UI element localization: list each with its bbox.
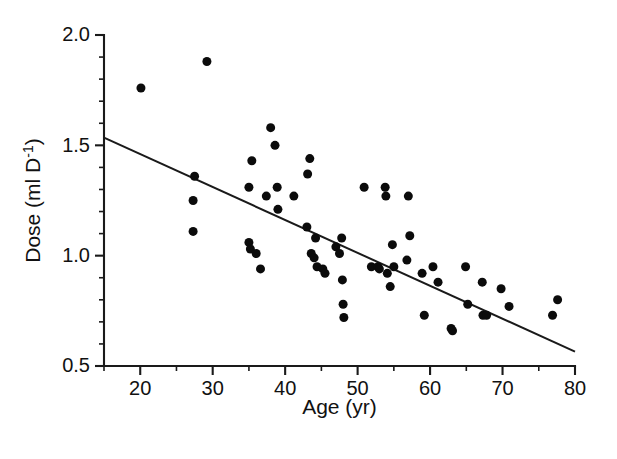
data-point: Age 47.9 yr, Dose 0.89 ml D-1 [338, 275, 347, 284]
figure-root: 0.51.01.52.020304050607080 Age 20.1 yr, … [0, 0, 617, 459]
data-point: Age 27.3 yr, Dose 1.11 ml D-1 [189, 227, 198, 236]
data-point: Age 20.1 yr, Dose 1.76 ml D-1 [136, 83, 145, 92]
data-point: Age 53.9 yr, Dose 1.27 ml D-1 [381, 192, 390, 201]
data-point: Age 50.9 yr, Dose 1.31 ml D-1 [360, 183, 369, 192]
y-tick-label: 2.0 [62, 23, 90, 45]
axis-tick-labels: 0.51.01.52.020304050607080 [62, 23, 586, 399]
x-tick-label: 70 [491, 377, 513, 399]
x-tick-label: 30 [202, 377, 224, 399]
data-point: Age 65.2 yr, Dose 0.78 ml D-1 [463, 300, 472, 309]
data-point: Age 36 yr, Dose 1.01 ml D-1 [252, 249, 261, 258]
data-point: Age 54.8 yr, Dose 1.05 ml D-1 [388, 240, 397, 249]
y-tick-label: 0.5 [62, 354, 90, 376]
y-axis-title-main: Dose (ml D [21, 158, 44, 263]
data-point: Age 61.1 yr, Dose 0.88 ml D-1 [434, 278, 443, 287]
data-point: Age 47.8 yr, Dose 1.08 ml D-1 [337, 234, 346, 243]
data-point: Age 35.4 yr, Dose 1.43 ml D-1 [247, 156, 256, 165]
data-point: Age 58.9 yr, Dose 0.92 ml D-1 [418, 269, 427, 278]
data-point: Age 27.3 yr, Dose 1.25 ml D-1 [189, 196, 198, 205]
x-axis-title: Age (yr) [302, 395, 377, 418]
y-axis-title-superscript: -1 [20, 145, 36, 158]
y-axis-title-tail: ) [21, 138, 44, 145]
data-point: Age 55 yr, Dose 0.95 ml D-1 [389, 262, 398, 271]
data-point: Age 70.9 yr, Dose 0.77 ml D-1 [505, 302, 514, 311]
data-point: Age 69.8 yr, Dose 0.85 ml D-1 [497, 284, 506, 293]
data-point: Age 63.1 yr, Dose 0.66 ml D-1 [448, 326, 457, 335]
data-point: Age 29.2 yr, Dose 1.88 ml D-1 [202, 57, 211, 66]
data-points: Age 20.1 yr, Dose 1.76 ml D-1Age 29.2 yr… [136, 57, 562, 335]
y-tick-label: 1.5 [62, 134, 90, 156]
data-point: Age 48.1 yr, Dose 0.72 ml D-1 [339, 313, 348, 322]
data-point: Age 53 yr, Dose 0.94 ml D-1 [375, 264, 384, 273]
x-tick-label: 20 [129, 377, 151, 399]
data-point: Age 67.2 yr, Dose 0.88 ml D-1 [478, 278, 487, 287]
data-point: Age 41.2 yr, Dose 1.27 ml D-1 [289, 192, 298, 201]
data-point: Age 44 yr, Dose 0.99 ml D-1 [310, 253, 319, 262]
data-point: Age 47.5 yr, Dose 1.01 ml D-1 [335, 249, 344, 258]
data-point: Age 77.6 yr, Dose 0.8 ml D-1 [553, 295, 562, 304]
data-point: Age 60.4 yr, Dose 0.95 ml D-1 [428, 262, 437, 271]
data-point: Age 43.1 yr, Dose 1.37 ml D-1 [303, 170, 312, 179]
y-tick-label: 1.0 [62, 244, 90, 266]
data-point: Age 57.2 yr, Dose 1.09 ml D-1 [405, 231, 414, 240]
data-point: Age 53.8 yr, Dose 1.31 ml D-1 [381, 183, 390, 192]
data-point: Age 36.6 yr, Dose 0.94 ml D-1 [256, 264, 265, 273]
axis-ticks [95, 35, 575, 375]
data-point: Age 64.9 yr, Dose 0.95 ml D-1 [461, 262, 470, 271]
scatter-plot: 0.51.01.52.020304050607080 Age 20.1 yr, … [0, 0, 617, 459]
data-point: Age 54.5 yr, Dose 0.86 ml D-1 [386, 282, 395, 291]
data-point: Age 45.5 yr, Dose 0.92 ml D-1 [321, 269, 330, 278]
data-point: Age 38.9 yr, Dose 1.31 ml D-1 [273, 183, 282, 192]
data-point: Age 38 yr, Dose 1.58 ml D-1 [266, 123, 275, 132]
x-tick-label: 40 [274, 377, 296, 399]
data-point: Age 35 yr, Dose 1.31 ml D-1 [244, 183, 253, 192]
data-point: Age 43 yr, Dose 1.13 ml D-1 [302, 222, 311, 231]
data-point: Age 67.8 yr, Dose 0.73 ml D-1 [482, 311, 491, 320]
data-point: Age 59.2 yr, Dose 0.73 ml D-1 [420, 311, 429, 320]
data-point: Age 57 yr, Dose 1.27 ml D-1 [404, 192, 413, 201]
x-tick-label: 80 [564, 377, 586, 399]
data-point: Age 44.2 yr, Dose 1.08 ml D-1 [311, 234, 320, 243]
data-point: Age 48 yr, Dose 0.78 ml D-1 [339, 300, 348, 309]
data-point: Age 38.6 yr, Dose 1.5 ml D-1 [271, 141, 280, 150]
data-point: Age 27.5 yr, Dose 1.36 ml D-1 [190, 172, 199, 181]
x-tick-label: 60 [419, 377, 441, 399]
data-point: Age 37.4 yr, Dose 1.27 ml D-1 [262, 192, 271, 201]
data-point: Age 54.1 yr, Dose 0.92 ml D-1 [383, 269, 392, 278]
data-point: Age 76.9 yr, Dose 0.73 ml D-1 [548, 311, 557, 320]
y-axis-title: Dose (ml D-1) [20, 138, 44, 262]
data-point: Age 43.4 yr, Dose 1.44 ml D-1 [305, 154, 314, 163]
data-point: Age 39 yr, Dose 1.21 ml D-1 [273, 205, 282, 214]
data-point: Age 56.8 yr, Dose 0.98 ml D-1 [402, 256, 411, 265]
